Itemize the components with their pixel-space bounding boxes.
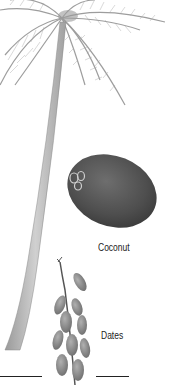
coconut-label: Coconut <box>98 242 130 253</box>
coconut <box>56 141 168 240</box>
palm-crown <box>58 10 78 22</box>
dates-label: Dates <box>101 330 123 341</box>
palm-fronds <box>0 0 165 105</box>
scale-bar-right <box>96 376 129 377</box>
illustration <box>0 0 171 385</box>
dates-cluster <box>51 257 92 385</box>
scale-bar-left <box>0 376 42 377</box>
